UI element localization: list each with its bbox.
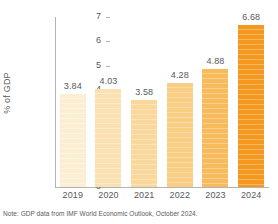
- x-axis-tick-label: 2024: [241, 190, 261, 200]
- plot-area: 01234567 3.8420194.0320203.5820214.28202…: [55, 17, 269, 187]
- bar[interactable]: 4.03: [95, 89, 121, 187]
- bar[interactable]: 4.28: [167, 83, 193, 187]
- x-axis-tick-label: 2019: [63, 190, 83, 200]
- bar-value-label: 6.68: [242, 12, 260, 22]
- x-axis-line: [55, 187, 269, 188]
- x-axis-tick-label: 2020: [98, 190, 118, 200]
- bar[interactable]: 3.58: [131, 100, 157, 187]
- bar-value-label: 3.58: [135, 87, 153, 97]
- bar-group: 3.842019: [55, 17, 91, 187]
- y-axis-title: % of GDP: [2, 43, 12, 143]
- chart-footnote: Note: GDP data from IMF World Economic O…: [3, 210, 198, 217]
- bar[interactable]: 4.88: [202, 69, 228, 188]
- bar-value-label: 4.03: [100, 76, 118, 86]
- x-axis-tick-label: 2022: [170, 190, 190, 200]
- bar-group: 6.682024: [233, 17, 269, 187]
- bar[interactable]: 6.68: [238, 25, 264, 187]
- bar-value-label: 4.28: [171, 70, 189, 80]
- y-axis-tick-mark: [106, 187, 110, 188]
- bar-group: 4.032020: [91, 17, 127, 187]
- bar-chart-figure: % of GDP 01234567 3.8420194.0320203.5820…: [0, 0, 278, 224]
- bar[interactable]: 3.84: [60, 94, 86, 187]
- bar-value-label: 3.84: [64, 81, 82, 91]
- x-axis-tick-label: 2023: [205, 190, 225, 200]
- bar-group: 4.282022: [162, 17, 198, 187]
- bar-value-label: 4.88: [207, 56, 225, 66]
- x-axis-tick-label: 2021: [134, 190, 154, 200]
- bar-group: 4.882023: [198, 17, 234, 187]
- bar-group: 3.582021: [126, 17, 162, 187]
